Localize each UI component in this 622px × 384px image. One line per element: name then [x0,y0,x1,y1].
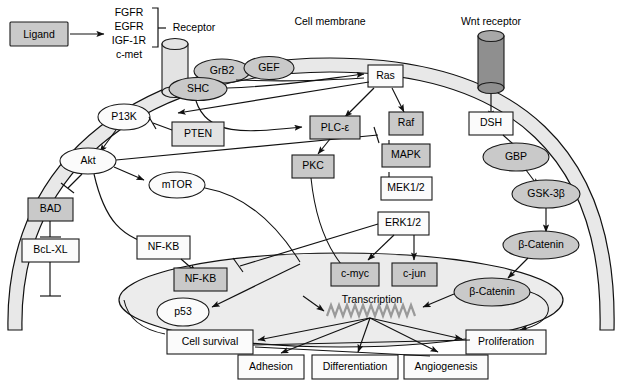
node-gef-label: GEF [258,61,280,73]
node-bad[interactable]: BAD [28,198,73,221]
edge-ras-plce [345,88,374,117]
receptor-label: Receptor [173,21,216,33]
node-bclxl-label: BcL-XL [33,243,68,255]
node-akt[interactable]: Akt [60,148,116,174]
node-bad-label: BAD [40,202,62,214]
node-cell-survival[interactable]: Cell survival [167,330,253,354]
node-p53-label: p53 [174,305,192,317]
node-mapk-label: MAPK [391,148,421,160]
edge-pkc-nucleus [311,178,341,264]
receptor-item-egfr: EGFR [114,20,144,32]
node-shc-label: SHC [187,82,210,94]
edge-mtor-nucleus [205,188,300,262]
node-nfkb-cytoplasm-label: NF-KB [148,240,180,252]
cell-membrane-label: Cell membrane [294,15,365,27]
node-gsk3b-label: GSK-3β [527,187,565,199]
node-dsh-label: DSH [480,116,502,128]
node-gbp-label: GBP [505,150,527,162]
node-erk-label: ERK1/2 [385,216,421,228]
node-mtor-label: mTOR [162,178,193,190]
node-cmyc-label: c-myc [341,267,369,279]
node-plce[interactable]: PLC-ε [310,116,360,139]
node-pten-label: PTEN [184,127,212,139]
node-erk[interactable]: ERK1/2 [378,212,429,235]
node-differentiation[interactable]: Differentiation [312,355,398,379]
wnt-receptor-cylinder[interactable] [478,31,504,94]
node-pi3k-label: P13K [111,110,137,122]
node-mek[interactable]: MEK1/2 [381,177,432,200]
node-shc[interactable]: SHC [169,78,227,101]
node-adhesion[interactable]: Adhesion [238,355,304,379]
transcription-label: Transcription [342,293,402,305]
node-akt-label: Akt [80,154,95,166]
node-pten[interactable]: PTEN [172,122,224,146]
node-angiogenesis-label: Angiogenesis [414,360,477,372]
edge-ras-raf [392,88,404,112]
node-cell-survival-label: Cell survival [182,335,239,347]
edge-plce-pkc [318,139,330,154]
node-raf-label: Raf [398,116,414,128]
receptor-item-cmet: c-met [116,48,142,60]
node-ligand-label: Ligand [23,28,55,40]
node-bcatenin-nucleus[interactable]: β-Catenin [454,278,530,306]
receptor-item-fgfr: FGFR [115,6,144,18]
node-bclxl[interactable]: BcL-XL [22,239,79,262]
edge-pten-inhibit-bar [149,117,156,129]
node-mtor[interactable]: mTOR [149,172,205,198]
node-bcatenin-cytoplasm-label: β-Catenin [518,238,564,250]
receptor-item-igf1r: IGF-1R [112,34,147,46]
node-adhesion-label: Adhesion [249,360,293,372]
node-proliferation-label: Proliferation [478,335,534,347]
node-nfkb-nucleus[interactable]: NF-KB [174,268,227,291]
pathway-diagram: Cell membrane Ligand FGFR EGFR IGF-1R c-… [0,0,622,384]
edge-akt-mtor [114,167,144,180]
node-bcatenin-cytoplasm[interactable]: β-Catenin [503,231,579,259]
node-nfkb-cytoplasm[interactable]: NF-KB [137,236,190,259]
node-pkc-label: PKC [302,159,324,171]
node-pkc[interactable]: PKC [292,155,334,178]
node-nfkb-nucleus-label: NF-KB [185,272,217,284]
node-angiogenesis[interactable]: Angiogenesis [404,355,488,379]
node-mek-label: MEK1/2 [387,181,425,193]
node-mapk[interactable]: MAPK [382,144,430,167]
node-p53[interactable]: p53 [157,298,209,326]
receptor-list: FGFR EGFR IGF-1R c-met [112,6,147,60]
node-pi3k[interactable]: P13K [98,104,150,130]
node-cjun-label: c-jun [403,267,426,279]
wnt-receptor-label: Wnt receptor [461,15,522,27]
node-proliferation[interactable]: Proliferation [466,330,546,354]
node-bcatenin-nucleus-label: β-Catenin [469,285,515,297]
receptor-bracket [152,8,158,47]
node-dsh[interactable]: DSH [469,112,513,135]
node-differentiation-label: Differentiation [323,360,388,372]
node-ras[interactable]: Ras [368,65,403,87]
node-cjun[interactable]: c-jun [392,263,437,286]
node-gef[interactable]: GEF [244,57,294,80]
node-ras-label: Ras [376,69,395,81]
node-plce-label: PLC-ε [321,121,350,133]
node-gbp[interactable]: GBP [483,143,549,171]
node-ligand[interactable]: Ligand [10,22,68,46]
node-gsk3b[interactable]: GSK-3β [512,180,580,208]
node-raf[interactable]: Raf [389,112,423,135]
node-grb2-label: GrB2 [210,64,235,76]
node-cmyc[interactable]: c-myc [331,263,379,286]
